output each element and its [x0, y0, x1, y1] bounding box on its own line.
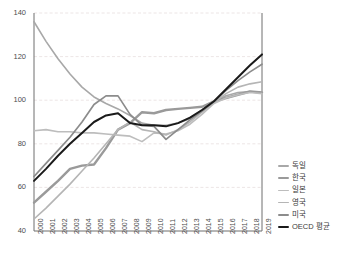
legend-item-0[interactable]: 독일 — [278, 161, 330, 171]
series-line-0 — [34, 22, 262, 126]
x-tick-label: 2000 — [37, 218, 44, 234]
chart-legend: 독일한국일본영국미국OECD 평균 — [278, 161, 330, 232]
legend-item-2[interactable]: 일본 — [278, 185, 330, 195]
legend-swatch-icon — [278, 165, 289, 167]
x-tick-label: 2005 — [97, 218, 104, 234]
y-tick-label: 80 — [4, 139, 26, 148]
x-tick-label: 2011 — [169, 219, 176, 234]
y-tick-label: 60 — [4, 182, 26, 191]
legend-item-3[interactable]: 영국 — [278, 198, 330, 208]
legend-swatch-icon — [278, 177, 289, 179]
legend-item-5[interactable]: OECD 평균 — [278, 222, 330, 232]
x-tick-label: 2009 — [145, 218, 152, 234]
x-tick-label: 2018 — [253, 218, 260, 234]
x-tick-label: 2016 — [229, 218, 236, 234]
x-tick-label: 2002 — [61, 218, 68, 234]
legend-swatch-icon — [278, 226, 289, 228]
x-tick-label: 2015 — [217, 218, 224, 234]
chart-axes — [34, 13, 262, 231]
legend-label: 미국 — [292, 210, 306, 220]
legend-label: 한국 — [292, 173, 306, 183]
legend-label: OECD 평균 — [292, 222, 330, 232]
y-tick-label: 140 — [4, 8, 26, 17]
x-tick-label: 2019 — [265, 218, 272, 234]
x-tick-label: 2004 — [85, 218, 92, 234]
x-tick-label: 2001 — [49, 218, 56, 234]
x-tick-label: 2017 — [241, 218, 248, 234]
y-tick-label: 100 — [4, 95, 26, 104]
x-tick-label: 2008 — [133, 218, 140, 234]
series-line-4 — [34, 64, 262, 176]
legend-swatch-icon — [278, 190, 289, 192]
x-tick-label: 2006 — [109, 218, 116, 234]
legend-label: 일본 — [292, 185, 306, 195]
series-lines — [34, 22, 262, 219]
x-tick-label: 2003 — [73, 218, 80, 234]
x-tick-label: 2014 — [205, 218, 212, 234]
y-tick-label: 40 — [4, 226, 26, 235]
legend-label: 영국 — [292, 198, 306, 208]
x-tick-label: 2013 — [193, 218, 200, 234]
line-chart: 140120100806040 200020012002200320042005… — [0, 0, 339, 265]
legend-item-4[interactable]: 미국 — [278, 210, 330, 220]
x-tick-label: 2012 — [181, 218, 188, 234]
series-line-3 — [34, 82, 262, 219]
x-tick-label: 2007 — [121, 218, 128, 234]
series-line-5 — [34, 54, 262, 180]
x-tick-label: 2010 — [157, 218, 164, 234]
legend-swatch-icon — [278, 214, 289, 216]
legend-swatch-icon — [278, 202, 289, 204]
legend-item-1[interactable]: 한국 — [278, 173, 330, 183]
gridlines — [34, 13, 262, 187]
y-tick-label: 120 — [4, 52, 26, 61]
legend-label: 독일 — [292, 161, 306, 171]
